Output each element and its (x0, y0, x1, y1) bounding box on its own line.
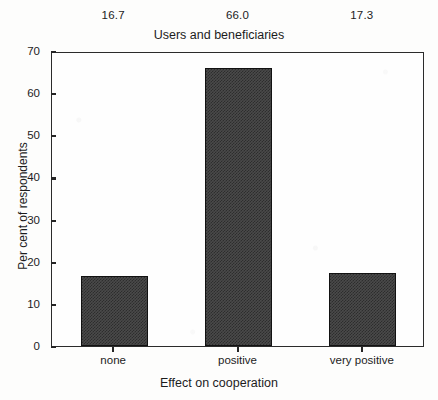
plot-area (51, 52, 424, 347)
bar-value-label: 17.3 (322, 9, 402, 21)
y-axis-tick-mark (51, 93, 56, 95)
bar (81, 276, 148, 346)
y-axis-tick-label: 30 (0, 214, 46, 226)
x-axis-tick-mark (112, 347, 114, 352)
y-axis-tick-mark (51, 51, 56, 53)
bar-value-label: 16.7 (73, 9, 153, 21)
y-axis-tick-label: 20 (0, 256, 46, 268)
y-axis-tick-mark (51, 346, 56, 348)
y-axis-tick-mark (51, 262, 56, 264)
y-axis-tick-label: 40 (0, 171, 46, 183)
bar-chart: 16.766.017.3 Users and beneficiaries Per… (0, 0, 438, 400)
y-axis-tick-mark (51, 135, 56, 137)
y-axis-tick-mark (51, 177, 56, 179)
bar-value-label: 66.0 (198, 9, 278, 21)
x-axis-title: Effect on cooperation (0, 376, 438, 390)
y-axis-tick-mark (51, 220, 56, 222)
y-axis-tick-label: 70 (0, 45, 46, 57)
x-axis-tick-label: very positive (297, 354, 427, 366)
bar (329, 273, 396, 346)
y-axis-tick-label: 0 (0, 340, 46, 352)
x-axis-tick-mark (237, 347, 239, 352)
y-axis-tick-mark (51, 304, 56, 306)
y-axis-title: Per cent of respondents (16, 91, 30, 321)
x-axis-tick-label: positive (173, 354, 303, 366)
chart-title: Users and beneficiaries (0, 28, 438, 42)
x-axis-tick-label: none (48, 354, 178, 366)
data-label-row: 16.766.017.3 (0, 9, 438, 25)
y-axis-tick-label: 60 (0, 87, 46, 99)
y-axis-tick-label: 10 (0, 298, 46, 310)
y-axis-tick-label: 50 (0, 129, 46, 141)
x-axis-tick-mark (361, 347, 363, 352)
bar (205, 68, 272, 346)
